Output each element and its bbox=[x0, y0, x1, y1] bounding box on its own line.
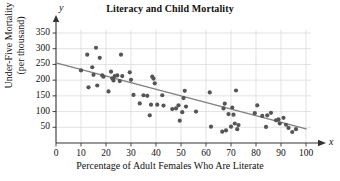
y-tick-label: 250 bbox=[24, 58, 50, 68]
x-tick-label: 10 bbox=[70, 148, 92, 158]
x-tick-label: 0 bbox=[45, 148, 67, 158]
tick-labels: 0102030405060708090100501001502002503003… bbox=[0, 0, 340, 181]
y-tick-label: 300 bbox=[24, 43, 50, 53]
y-axis-letter: y bbox=[59, 2, 63, 13]
x-tick-label: 40 bbox=[145, 148, 167, 158]
y-tick-label: 100 bbox=[24, 106, 50, 116]
x-axis-letter: x bbox=[329, 136, 333, 147]
x-tick-label: 20 bbox=[95, 148, 117, 158]
x-tick-label: 60 bbox=[195, 148, 217, 158]
x-tick-label: 30 bbox=[120, 148, 142, 158]
x-tick-label: 80 bbox=[245, 148, 267, 158]
x-tick-label: 90 bbox=[270, 148, 292, 158]
y-tick-label: 50 bbox=[24, 121, 50, 131]
x-tick-label: 70 bbox=[220, 148, 242, 158]
y-tick-label: 150 bbox=[24, 90, 50, 100]
y-tick-label: 200 bbox=[24, 74, 50, 84]
x-tick-label: 100 bbox=[295, 148, 317, 158]
x-tick-label: 50 bbox=[170, 148, 192, 158]
y-tick-label: 350 bbox=[24, 27, 50, 37]
scatter-plot-figure: Literacy and Child Mortality Under-Five … bbox=[0, 0, 340, 181]
